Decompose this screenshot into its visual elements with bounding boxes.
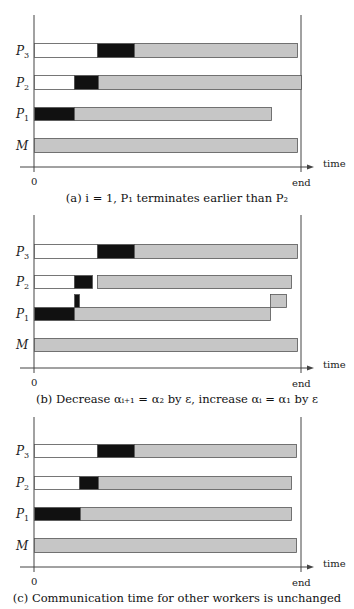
panel-caption: (b) Decrease αᵢ₊₁ = α₂ by ε, increase αᵢ… bbox=[36, 392, 318, 406]
communication-segment bbox=[35, 108, 75, 121]
row-label: P2 bbox=[15, 275, 29, 291]
computation-segment bbox=[81, 508, 292, 521]
timeline-row-p2: P2 bbox=[15, 275, 292, 291]
communication-segment bbox=[98, 445, 135, 458]
end-tick-label: end bbox=[292, 577, 311, 588]
time-axis-label: time bbox=[323, 558, 346, 569]
epsilon-communication-piece bbox=[75, 295, 80, 308]
computation-segment bbox=[135, 44, 298, 58]
communication-segment bbox=[75, 76, 99, 90]
row-label: P2 bbox=[15, 476, 29, 492]
timeline-row-p1: P1 bbox=[15, 307, 271, 323]
row-label: P2 bbox=[15, 76, 29, 92]
end-tick-label: end bbox=[292, 177, 311, 188]
row-label: M bbox=[15, 139, 29, 153]
computation-segment bbox=[99, 76, 302, 90]
row-label: P1 bbox=[15, 507, 29, 523]
computation-segment bbox=[135, 245, 298, 259]
computation-segment bbox=[135, 445, 297, 458]
timeline-row-p1: P1 bbox=[15, 107, 272, 123]
panel-caption: (a) i = 1, P₁ terminates earlier than P₂ bbox=[66, 191, 288, 205]
idle-segment bbox=[35, 245, 98, 259]
timeline-row-p3: P3 bbox=[15, 245, 298, 262]
idle-segment bbox=[35, 276, 75, 289]
row-label: M bbox=[15, 338, 29, 352]
arrow-head-icon bbox=[307, 165, 314, 170]
timeline-row-p1: P1 bbox=[15, 507, 292, 523]
computation-segment bbox=[35, 539, 297, 553]
idle-segment bbox=[35, 76, 75, 90]
row-label: P1 bbox=[15, 107, 29, 123]
time-axis-label: time bbox=[323, 359, 346, 370]
communication-segment bbox=[35, 508, 81, 521]
gantt-diagram-figure: P3P2P1M0endtime(a) i = 1, P₁ terminates … bbox=[0, 0, 354, 609]
computation-segment bbox=[75, 308, 271, 321]
computation-segment bbox=[75, 108, 272, 121]
timeline-row-p3: P3 bbox=[15, 444, 297, 460]
row-label: P1 bbox=[15, 307, 29, 323]
computation-segment bbox=[98, 276, 292, 289]
timeline-row-m: M bbox=[15, 338, 298, 352]
communication-segment bbox=[98, 245, 135, 259]
epsilon-computation-piece bbox=[271, 295, 287, 308]
panel-caption: (c) Communication time for other workers… bbox=[13, 591, 342, 605]
arrow-head-icon bbox=[307, 366, 314, 371]
timeline-row-p2: P2 bbox=[15, 76, 302, 93]
timeline-row-p3: P3 bbox=[15, 44, 298, 61]
communication-segment bbox=[75, 276, 93, 289]
row-label: P3 bbox=[15, 444, 29, 460]
panel-c: P3P2P1M0endtime(c) Communication time fo… bbox=[13, 417, 346, 605]
time-axis-label: time bbox=[323, 158, 346, 169]
arrow-head-icon bbox=[307, 565, 314, 570]
origin-tick-label: 0 bbox=[31, 377, 37, 388]
timeline-row-m: M bbox=[15, 139, 298, 154]
communication-segment bbox=[80, 477, 99, 490]
panel-a: P3P2P1M0endtime(a) i = 1, P₁ terminates … bbox=[15, 15, 346, 205]
idle-segment bbox=[35, 477, 80, 490]
computation-segment bbox=[99, 477, 292, 490]
timeline-row-p2: P2 bbox=[15, 476, 292, 492]
row-label: P3 bbox=[15, 245, 29, 261]
end-tick-label: end bbox=[292, 378, 311, 389]
idle-segment bbox=[35, 445, 98, 458]
row-label: P3 bbox=[15, 44, 29, 60]
panel-b: P3P2P1M0endtime(b) Decrease αᵢ₊₁ = α₂ by… bbox=[15, 215, 346, 406]
origin-tick-label: 0 bbox=[31, 176, 37, 187]
timeline-row-m: M bbox=[15, 539, 297, 554]
computation-segment bbox=[35, 139, 298, 153]
origin-tick-label: 0 bbox=[31, 576, 37, 587]
row-label: M bbox=[15, 539, 29, 553]
computation-segment bbox=[35, 339, 298, 352]
communication-segment bbox=[98, 44, 135, 58]
communication-segment bbox=[35, 308, 75, 321]
idle-segment bbox=[35, 44, 98, 58]
